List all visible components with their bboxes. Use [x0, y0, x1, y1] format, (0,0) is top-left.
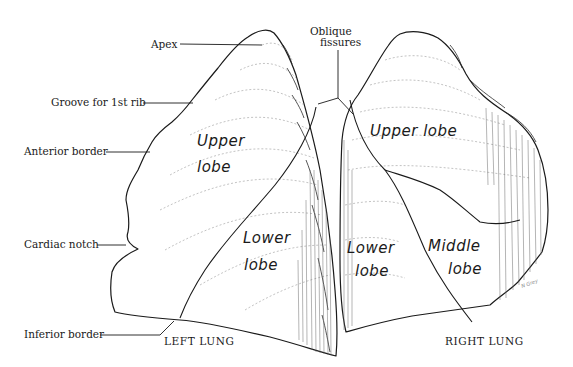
- callout-apex: Apex: [150, 38, 178, 50]
- lung-anatomy-diagram: Upper lobe Lower lobe: [0, 0, 573, 367]
- leader-inferior-border: [100, 321, 174, 335]
- right-lower-lobe-label-1: Lower: [347, 239, 395, 257]
- right-lower-lobe-label-2: lobe: [355, 262, 389, 280]
- left-lung-outline: [111, 30, 337, 356]
- leader-oblique-fissures: [318, 50, 338, 104]
- callout-oblique-fissures-line2: fissures: [320, 36, 361, 48]
- right-upper-lobe-label: Upper lobe: [370, 122, 457, 140]
- callout-cardiac-notch: Cardiac notch: [24, 238, 99, 250]
- right-middle-lobe-label-1: Middle: [428, 237, 481, 255]
- left-lung-caption: LEFT LUNG: [164, 335, 235, 347]
- callout-inferior-border-text: Inferior border: [24, 328, 105, 340]
- right-lung: Upper lobe Lower lobe Middle lobe N Grey: [340, 32, 548, 332]
- right-lung-caption: RIGHT LUNG: [445, 335, 524, 347]
- callout-groove-1st-rib: Groove for 1st rib: [51, 96, 146, 108]
- left-lung: Upper lobe Lower lobe: [111, 30, 337, 356]
- left-lower-lobe-label-2: lobe: [244, 256, 278, 274]
- left-upper-lobe-label-2: lobe: [197, 158, 231, 176]
- right-middle-lobe-label-2: lobe: [448, 260, 482, 278]
- left-lower-lobe-label-1: Lower: [243, 229, 291, 247]
- left-upper-lobe-label-1: Upper: [197, 132, 245, 150]
- artist-signature: N Grey: [520, 277, 540, 290]
- callout-anterior-border: Anterior border: [23, 145, 109, 157]
